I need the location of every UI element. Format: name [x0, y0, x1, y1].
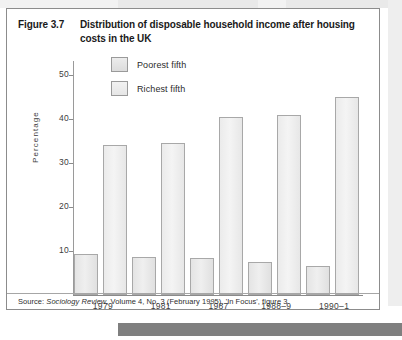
page-background-top	[0, 0, 402, 8]
bar-poorest-1990–1	[306, 266, 330, 295]
figure-number: Figure 3.7	[18, 18, 80, 45]
x-axis-line	[73, 295, 363, 296]
y-tickmark-40	[69, 119, 73, 120]
y-tick-50: 50	[35, 69, 69, 79]
bar-poorest-1987	[190, 258, 214, 295]
figure-container: Figure 3.7 Distribution of disposable ho…	[6, 8, 380, 310]
y-tickmark-20	[69, 207, 73, 208]
y-tick-30: 30	[35, 157, 69, 167]
y-tick-40: 40	[35, 113, 69, 123]
y-axis-tick-labels: 1020304050	[33, 51, 69, 273]
y-tickmark-50	[69, 75, 73, 76]
bar-poorest-1981	[132, 257, 156, 295]
page-background-right	[388, 0, 402, 310]
bar-richest-1990–1	[335, 97, 359, 295]
figure-source: Source: Sociology Review, Volume 4, No. …	[18, 297, 287, 306]
bar-poorest-1988–9	[248, 262, 272, 295]
bar-richest-1988–9	[277, 115, 301, 295]
bar-richest-1987	[219, 117, 243, 295]
y-tick-20: 20	[35, 201, 69, 211]
source-publication: Sociology Review	[46, 297, 106, 306]
bar-richest-1981	[161, 143, 185, 295]
page-footer-bar	[118, 323, 402, 336]
bar-poorest-1979	[74, 254, 98, 295]
source-divider	[7, 293, 379, 294]
figure-title: Distribution of disposable household inc…	[80, 18, 369, 45]
chart-bars	[74, 51, 363, 295]
source-prefix: Source:	[18, 297, 46, 306]
page-smudge-left	[118, 0, 258, 8]
source-details: , Volume 4, No. 3 (February 1995), 'In F…	[106, 297, 287, 306]
x-tick-1990–1: 1990–1	[305, 301, 363, 311]
y-tickmark-30	[69, 163, 73, 164]
y-tickmark-10	[69, 251, 73, 252]
page-smudge-right	[286, 0, 396, 8]
chart-plot-area: Percentage 1020304050 Poorest fifth Rich…	[7, 51, 379, 273]
bar-richest-1979	[103, 145, 127, 295]
figure-header: Figure 3.7 Distribution of disposable ho…	[7, 9, 379, 45]
y-tick-10: 10	[35, 245, 69, 255]
